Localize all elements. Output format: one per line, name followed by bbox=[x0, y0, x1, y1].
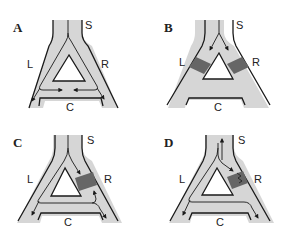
label-stem: S bbox=[85, 19, 92, 31]
label-left: L bbox=[27, 173, 33, 185]
panel-d: D S L R C bbox=[142, 115, 284, 230]
label-bottom: C bbox=[66, 101, 74, 113]
label-left: L bbox=[179, 56, 185, 68]
label-stem: S bbox=[87, 134, 94, 146]
panel-c: C S L R C bbox=[0, 115, 142, 230]
branching-diagram-b bbox=[142, 0, 284, 115]
panel-label: B bbox=[164, 20, 173, 36]
branching-diagram-c bbox=[0, 115, 142, 230]
panel-label: D bbox=[164, 135, 173, 151]
branching-diagram-d bbox=[142, 115, 284, 230]
label-bottom: C bbox=[216, 216, 224, 228]
label-right: R bbox=[252, 56, 260, 68]
label-bottom: C bbox=[64, 216, 72, 228]
panel-b: B S L R C bbox=[142, 0, 284, 115]
panel-a: A S L R C bbox=[0, 0, 142, 115]
label-stem: S bbox=[236, 19, 243, 31]
label-bottom: C bbox=[214, 101, 222, 113]
label-left: L bbox=[179, 173, 185, 185]
label-stem: S bbox=[238, 134, 245, 146]
label-right: R bbox=[101, 58, 109, 70]
panel-label: C bbox=[13, 135, 22, 151]
label-right: R bbox=[254, 173, 262, 185]
branching-diagram-a bbox=[0, 0, 142, 115]
label-right: R bbox=[104, 173, 112, 185]
label-left: L bbox=[27, 58, 33, 70]
panel-label: A bbox=[13, 20, 22, 36]
